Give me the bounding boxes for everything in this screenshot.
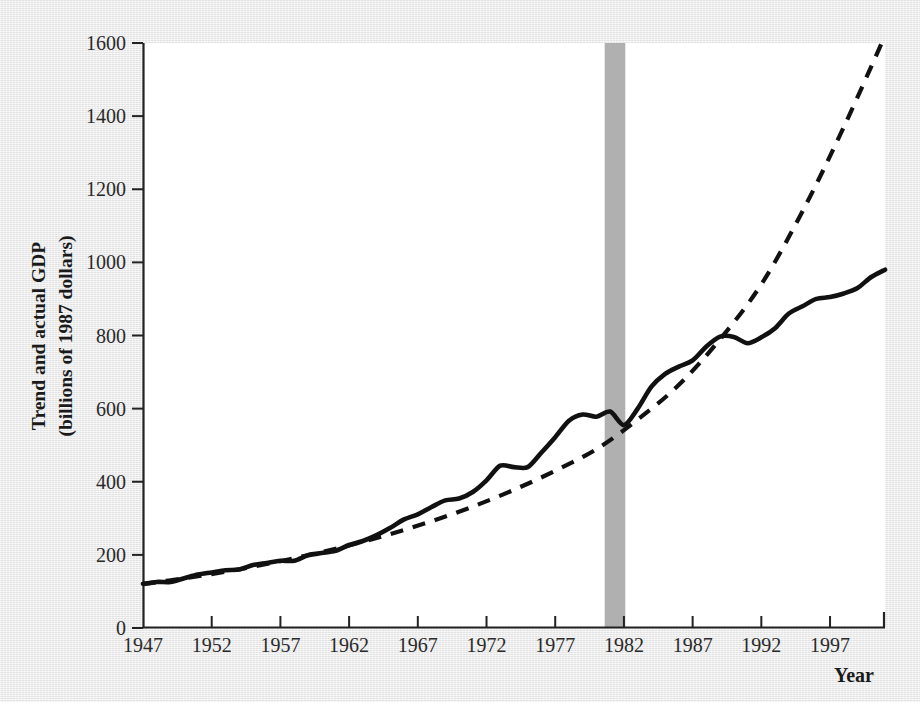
y-tick-label: 1400 <box>86 105 126 127</box>
recession-band-group <box>605 43 626 628</box>
plot-area-background <box>143 43 885 628</box>
y-axis-title: Trend and actual GDP (billions of 1987 d… <box>28 236 77 437</box>
y-tick-label: 600 <box>96 398 126 420</box>
y-tick-label: 800 <box>96 325 126 347</box>
y-tick-label: 1000 <box>86 251 126 273</box>
y-tick-label: 1600 <box>86 32 126 54</box>
x-tick-label: 1972 <box>467 634 507 656</box>
x-tick-label: 1967 <box>398 634 438 656</box>
y-axis-title-line2: (billions of 1987 dollars) <box>55 236 77 437</box>
x-tick-label: 1982 <box>604 634 644 656</box>
x-tick-label: 1957 <box>260 634 300 656</box>
y-axis-title-line1: Trend and actual GDP <box>28 242 49 430</box>
x-tick-label: 1947 <box>123 634 163 656</box>
x-tick-label: 1997 <box>810 634 850 656</box>
x-tick-label: 1962 <box>329 634 369 656</box>
gdp-trend-chart-figure: 02004006008001000120014001600 1947195219… <box>0 0 920 702</box>
chart-canvas: 02004006008001000120014001600 1947195219… <box>0 0 920 702</box>
recession-band <box>605 43 626 628</box>
x-tick-label: 1952 <box>192 634 232 656</box>
y-axis-ticks: 02004006008001000120014001600 <box>86 32 143 639</box>
x-tick-label: 1992 <box>741 634 781 656</box>
x-axis-title: Year <box>834 664 874 686</box>
x-tick-label: 1987 <box>673 634 713 656</box>
y-tick-label: 400 <box>96 471 126 493</box>
y-tick-label: 200 <box>96 544 126 566</box>
x-tick-label: 1977 <box>535 634 575 656</box>
y-tick-label: 1200 <box>86 178 126 200</box>
